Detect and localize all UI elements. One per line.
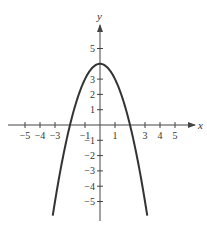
y-tick-label: −1 <box>84 135 95 146</box>
x-axis-label: x <box>197 119 203 131</box>
y-tick-label: −5 <box>84 196 95 207</box>
x-tick-label: 1 <box>113 130 118 141</box>
y-tick-label: −2 <box>84 150 95 161</box>
parabola-chart: −5−4−3−113455321−1−2−3−4−5 x y <box>0 0 207 226</box>
x-tick-label: −3 <box>50 130 61 141</box>
axes <box>8 25 195 221</box>
x-tick-label: 5 <box>173 130 178 141</box>
y-tick-label: −4 <box>84 181 95 192</box>
x-tick-label: 3 <box>143 130 148 141</box>
y-tick-label: 5 <box>90 43 95 54</box>
y-tick-label: 2 <box>90 89 95 100</box>
x-tick-label: −5 <box>20 130 31 141</box>
x-tick-label: 4 <box>158 130 163 141</box>
y-axis-label: y <box>96 10 102 22</box>
y-tick-label: 1 <box>90 104 95 115</box>
x-tick-label: −4 <box>35 130 46 141</box>
y-tick-label: −3 <box>84 165 95 176</box>
y-tick-label: 3 <box>90 74 95 85</box>
